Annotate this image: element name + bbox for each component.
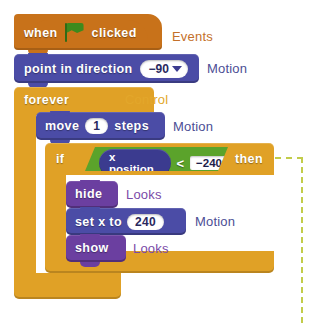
forever-label: forever <box>24 93 69 107</box>
block-notch <box>80 234 100 239</box>
reporter-x-position[interactable]: x position <box>99 149 171 177</box>
category-label-control: Control <box>125 92 168 107</box>
hide-label: hide <box>75 187 102 201</box>
category-label-looks-2: Looks <box>133 241 169 256</box>
block-when-green-flag-clicked[interactable]: when clicked <box>14 14 162 50</box>
boolean-less-than[interactable]: x position < −240 <box>85 147 228 171</box>
show-row: show <box>75 241 109 255</box>
condition-value-input[interactable]: −240 <box>190 156 228 170</box>
move-steps-input[interactable]: 1 <box>85 118 108 134</box>
block-notch <box>28 53 48 58</box>
if-top-bar: if x position < −240 then <box>45 143 274 175</box>
set-x-to-label: set x to <box>75 215 122 229</box>
forever-left-arm <box>14 113 36 279</box>
condition-row: x position < −240 <box>99 149 228 177</box>
set-x-row: set x to 240 <box>75 214 164 230</box>
show-label: show <box>75 241 109 255</box>
steps-label: steps <box>114 119 149 133</box>
block-point-in-direction[interactable]: point in direction −90 <box>14 54 199 83</box>
move-label: move <box>45 119 79 133</box>
move-steps-row: move 1 steps <box>45 118 149 134</box>
category-label-motion-3: Motion <box>195 214 235 229</box>
less-than-operator: < <box>177 156 185 171</box>
direction-value: −90 <box>149 62 169 76</box>
block-notch <box>50 111 70 116</box>
green-flag-icon <box>65 23 85 42</box>
category-label-motion-1: Motion <box>207 61 247 76</box>
clicked-label: clicked <box>92 26 137 40</box>
annotation-dashed-vertical <box>301 157 303 323</box>
block-bump <box>80 262 100 267</box>
category-label-looks-1: Looks <box>126 187 162 202</box>
direction-dropdown[interactable]: −90 <box>140 60 188 78</box>
hide-row: hide <box>75 187 102 201</box>
block-hide[interactable]: hide <box>66 181 118 208</box>
block-move-steps[interactable]: move 1 steps <box>36 112 165 140</box>
forever-bottom-bar <box>14 273 121 299</box>
point-in-direction-row: point in direction −90 <box>24 60 188 78</box>
category-label-motion-2: Motion <box>173 119 213 134</box>
if-label: if <box>56 152 64 166</box>
hat-block-row: when clicked <box>24 23 137 42</box>
category-label-events: Events <box>172 29 213 44</box>
point-in-direction-label: point in direction <box>24 62 133 76</box>
block-show[interactable]: show <box>66 235 126 262</box>
block-set-x-to[interactable]: set x to 240 <box>66 208 186 235</box>
annotation-dashed-horizontal <box>275 157 303 159</box>
set-x-value-input[interactable]: 240 <box>127 214 164 230</box>
block-notch <box>80 180 100 185</box>
scratch-script-canvas: when clicked Events point in direction −… <box>0 0 321 323</box>
if-left-arm <box>45 173 66 257</box>
when-label: when <box>24 26 58 40</box>
chevron-down-icon <box>172 66 182 72</box>
block-notch <box>80 207 100 212</box>
then-label: then <box>235 152 263 166</box>
